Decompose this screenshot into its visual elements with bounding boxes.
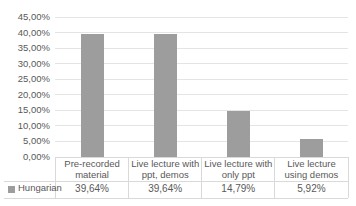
bar-2: [154, 34, 177, 157]
legend-series-label: Hungarian: [18, 182, 62, 194]
bar-chart: 0,00%5,00%10,00%15,00%20,00%25,00%30,00%…: [0, 0, 356, 206]
y-axis-tick-label: 45,00%: [0, 11, 50, 23]
y-axis-tick-label: 30,00%: [0, 58, 50, 70]
gridline: [55, 17, 348, 18]
value-label: 5,92%: [275, 183, 348, 195]
y-axis-tick-label: 15,00%: [0, 104, 50, 116]
table-border-vertical: [348, 157, 349, 198]
category-label: Live lecture with ppt, demos: [129, 159, 202, 180]
bar-4: [300, 139, 323, 157]
y-axis-tick-label: 0,00%: [0, 151, 50, 163]
category-label: Live lecture using demos: [275, 159, 348, 180]
table-border-vertical: [128, 157, 129, 198]
y-axis-tick-label: 40,00%: [0, 27, 50, 39]
y-axis-tick-label: 20,00%: [0, 89, 50, 101]
x-axis-line: [56, 157, 349, 158]
y-axis-tick-label: 35,00%: [0, 42, 50, 54]
value-label: 39,64%: [129, 183, 202, 195]
table-border-horizontal: [4, 198, 348, 199]
value-label: 14,79%: [202, 183, 275, 195]
bar-1: [81, 34, 104, 157]
table-border-vertical: [201, 157, 202, 198]
y-axis-tick-label: 25,00%: [0, 73, 50, 85]
table-border-vertical: [274, 157, 275, 198]
category-label: Pre-recorded material: [56, 159, 129, 180]
y-axis-tick-label: 10,00%: [0, 120, 50, 132]
y-axis-tick-label: 5,00%: [0, 135, 50, 147]
legend-color-swatch: [8, 186, 15, 193]
category-label: Live lecture with only ppt: [202, 159, 275, 180]
value-label: 39,64%: [56, 183, 129, 195]
bar-3: [227, 111, 250, 157]
